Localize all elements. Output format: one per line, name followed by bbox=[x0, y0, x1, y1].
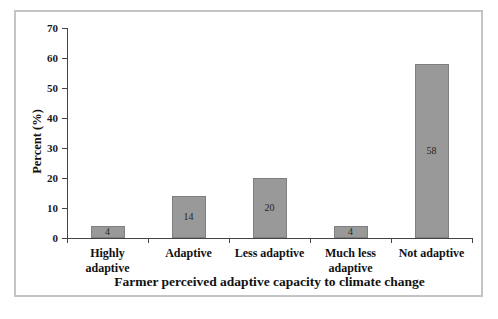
x-tick-mark bbox=[391, 238, 392, 243]
x-category-label: Not adaptive bbox=[391, 246, 472, 261]
x-tick-mark bbox=[310, 238, 311, 243]
x-tick-mark bbox=[229, 238, 230, 243]
bar: 4 bbox=[334, 226, 368, 238]
y-tick-mark bbox=[62, 118, 67, 119]
x-axis-title: Farmer perceived adaptive capacity to cl… bbox=[67, 274, 472, 290]
y-tick-label: 10 bbox=[18, 202, 58, 215]
bar: 4 bbox=[91, 226, 125, 238]
y-tick-label: 0 bbox=[18, 232, 58, 245]
bar-value-label: 4 bbox=[348, 227, 353, 237]
y-tick-label: 50 bbox=[18, 82, 58, 95]
x-category-label: Adaptive bbox=[148, 246, 229, 261]
y-tick-mark bbox=[62, 28, 67, 29]
x-tick-mark bbox=[67, 238, 68, 243]
y-tick-mark bbox=[62, 88, 67, 89]
x-tick-mark bbox=[148, 238, 149, 243]
bar-value-label: 58 bbox=[427, 146, 437, 156]
y-tick-mark bbox=[62, 178, 67, 179]
bar-chart: Percent (%) Farmer perceived adaptive ca… bbox=[0, 0, 498, 319]
bar: 20 bbox=[253, 178, 287, 238]
y-tick-mark bbox=[62, 148, 67, 149]
x-category-label: Much less adaptive bbox=[310, 246, 391, 276]
y-tick-mark bbox=[62, 58, 67, 59]
x-tick-mark bbox=[472, 238, 473, 243]
y-tick-label: 20 bbox=[18, 172, 58, 185]
bar-value-label: 20 bbox=[265, 203, 275, 213]
bar-value-label: 4 bbox=[105, 227, 110, 237]
y-tick-label: 60 bbox=[18, 52, 58, 65]
y-tick-label: 70 bbox=[18, 22, 58, 35]
bar: 14 bbox=[172, 196, 206, 238]
y-tick-label: 40 bbox=[18, 112, 58, 125]
x-category-label: Highly adaptive bbox=[67, 246, 148, 276]
y-tick-label: 30 bbox=[18, 142, 58, 155]
bar: 58 bbox=[415, 64, 449, 238]
x-category-label: Less adaptive bbox=[229, 246, 310, 261]
y-tick-mark bbox=[62, 208, 67, 209]
bar-value-label: 14 bbox=[184, 212, 194, 222]
